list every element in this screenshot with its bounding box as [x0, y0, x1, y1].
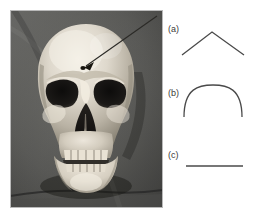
rounded-arch-shape	[184, 85, 242, 117]
skull-photograph	[10, 10, 163, 208]
shape-label-c: (c)	[168, 150, 179, 160]
chin-highlight	[70, 173, 102, 191]
skull-photo-canvas	[10, 10, 163, 208]
shape-label-a: (a)	[168, 24, 179, 34]
peaked-chevron-shape	[182, 32, 244, 55]
shape-diagram-canvas	[165, 10, 255, 208]
mouth-gap	[63, 160, 109, 164]
right-eye-orbit	[94, 80, 127, 109]
shape-diagram	[165, 10, 255, 208]
arrow-target-spot	[80, 66, 85, 70]
figure-container: (a) (b) (c)	[0, 0, 255, 219]
shape-label-b: (b)	[168, 88, 179, 98]
frontal-bone-specular	[90, 33, 122, 59]
